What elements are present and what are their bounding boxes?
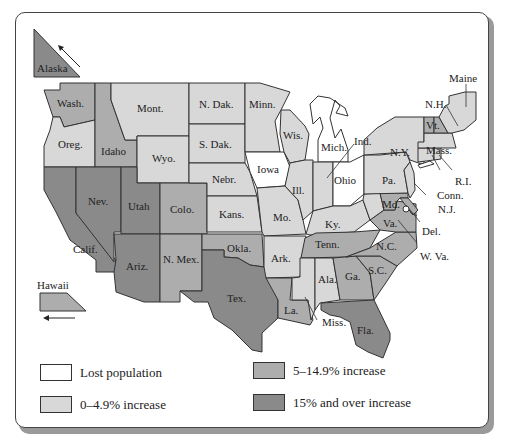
state-pa[interactable] <box>364 152 410 194</box>
swatch-high <box>253 394 285 411</box>
legend-item-mid: 5–14.9% increase <box>253 362 385 379</box>
label-wy: Wyo. <box>152 152 176 164</box>
label-ut: Utah <box>128 200 150 212</box>
label-nc: N.C. <box>376 240 397 252</box>
label-mt: Mont. <box>137 102 164 114</box>
label-nh: N.H. <box>425 98 447 110</box>
label-ia: Iowa <box>257 163 279 175</box>
label-nj: N.J. <box>438 203 456 215</box>
label-ar: Ark. <box>271 252 291 264</box>
label-nd: N. Dak. <box>199 98 234 110</box>
label-vt: Vt. <box>426 119 440 131</box>
label-de: Del. <box>422 225 441 237</box>
label-co: Colo. <box>170 203 194 215</box>
swatch-lost <box>40 364 72 381</box>
label-wa: Wash. <box>57 97 84 109</box>
label-me: Maine <box>449 72 477 84</box>
legend-label-mid: 5–14.9% increase <box>293 363 385 379</box>
label-or: Oreg. <box>58 138 83 150</box>
legend-label-low: 0–4.9% increase <box>80 397 166 413</box>
swatch-mid <box>253 362 285 379</box>
label-mi: Mich. <box>321 141 347 153</box>
label-va: Va. <box>383 217 398 229</box>
label-mo: Mo. <box>273 211 291 223</box>
alaska-inset[interactable]: Alaska <box>34 29 80 77</box>
label-ri: R.I. <box>455 175 472 187</box>
label-ok: Okla. <box>227 242 251 254</box>
label-al: Ala. <box>318 273 337 285</box>
label-il: Ill. <box>292 184 305 196</box>
label-id: Idaho <box>101 145 127 157</box>
state-hawaii[interactable] <box>40 293 86 311</box>
label-tn: Tenn. <box>315 238 340 250</box>
legend-item-low: 0–4.9% increase <box>40 396 166 413</box>
label-nv: Nev. <box>88 195 109 207</box>
label-in: Ind. <box>354 135 372 147</box>
label-sd: S. Dak. <box>199 138 232 150</box>
state-fl[interactable] <box>321 300 390 358</box>
label-ct: Conn. <box>437 189 464 201</box>
label-wv: W. Va. <box>420 250 449 262</box>
legend-item-lost: Lost population <box>40 364 162 381</box>
label-ms: Miss. <box>322 316 346 328</box>
label-tx: Tex. <box>227 292 246 304</box>
label-alaska: Alaska <box>37 62 68 74</box>
legend-item-high: 15% and over increase <box>253 394 411 411</box>
hawaii-inset[interactable]: Hawaii <box>37 279 86 321</box>
label-oh: Ohio <box>334 174 357 186</box>
label-pa: Pa. <box>382 174 396 186</box>
label-md: Md. <box>382 198 400 210</box>
state-in[interactable] <box>313 162 333 211</box>
label-nm: N. Mex. <box>163 253 200 265</box>
label-hawaii: Hawaii <box>37 279 69 291</box>
dc-marker-icon <box>403 206 409 212</box>
label-ca: Calif. <box>73 243 98 255</box>
label-mn: Minn. <box>249 98 276 110</box>
label-az: Ariz. <box>126 260 149 272</box>
label-ga: Ga. <box>345 270 361 282</box>
label-ny: N.Y. <box>390 146 410 158</box>
label-ks: Kans. <box>219 208 245 220</box>
legend-label-lost: Lost population <box>80 365 162 381</box>
label-sc: S.C. <box>368 264 387 276</box>
hawaii-arrowhead-icon <box>43 315 49 321</box>
label-la: La. <box>284 304 299 316</box>
legend-label-high: 15% and over increase <box>293 395 411 411</box>
label-ky: Ky. <box>325 218 341 230</box>
swatch-low <box>40 396 72 413</box>
label-ma: Mass. <box>426 144 452 156</box>
label-ne: Nebr. <box>212 173 236 185</box>
label-fl: Fla. <box>357 324 374 336</box>
label-wi: Wis. <box>283 129 303 141</box>
